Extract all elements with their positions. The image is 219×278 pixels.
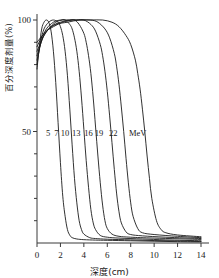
- chart-canvas: 0246810121450100 571013161922MeV: [0, 0, 219, 278]
- x-tick-label: 6: [105, 250, 110, 260]
- y-axis-title-text: 百分深度剂量(%): [2, 23, 14, 92]
- x-axis-title-text: 深度(cm): [90, 267, 129, 277]
- y-tick-label: 50: [22, 127, 32, 137]
- x-tick-label: 10: [150, 250, 160, 260]
- x-axis-title: 深度(cm): [0, 261, 219, 278]
- series-label: 10: [61, 128, 70, 138]
- x-tick-label: 8: [128, 250, 133, 260]
- series-labels-group: 571013161922MeV: [46, 128, 147, 138]
- axes-group: [33, 14, 209, 247]
- x-tick-label: 2: [58, 250, 63, 260]
- pdd-chart: 0246810121450100 571013161922MeV 百分深度剂量(…: [0, 0, 219, 278]
- series-label: 5: [46, 128, 50, 138]
- series-label: 16: [84, 128, 93, 138]
- series-label: 7: [54, 128, 58, 138]
- series-label: 13: [72, 128, 81, 138]
- y-tick-label: 100: [18, 15, 32, 25]
- y-axis-title: 百分深度剂量(%): [0, 0, 16, 92]
- x-tick-label: 4: [82, 250, 87, 260]
- unit-annotation: MeV: [129, 128, 147, 138]
- series-label: 19: [95, 128, 104, 138]
- x-tick-label: 12: [173, 250, 182, 260]
- x-tick-label: 0: [35, 250, 40, 260]
- x-tick-label: 14: [197, 250, 207, 260]
- series-label: 22: [109, 128, 118, 138]
